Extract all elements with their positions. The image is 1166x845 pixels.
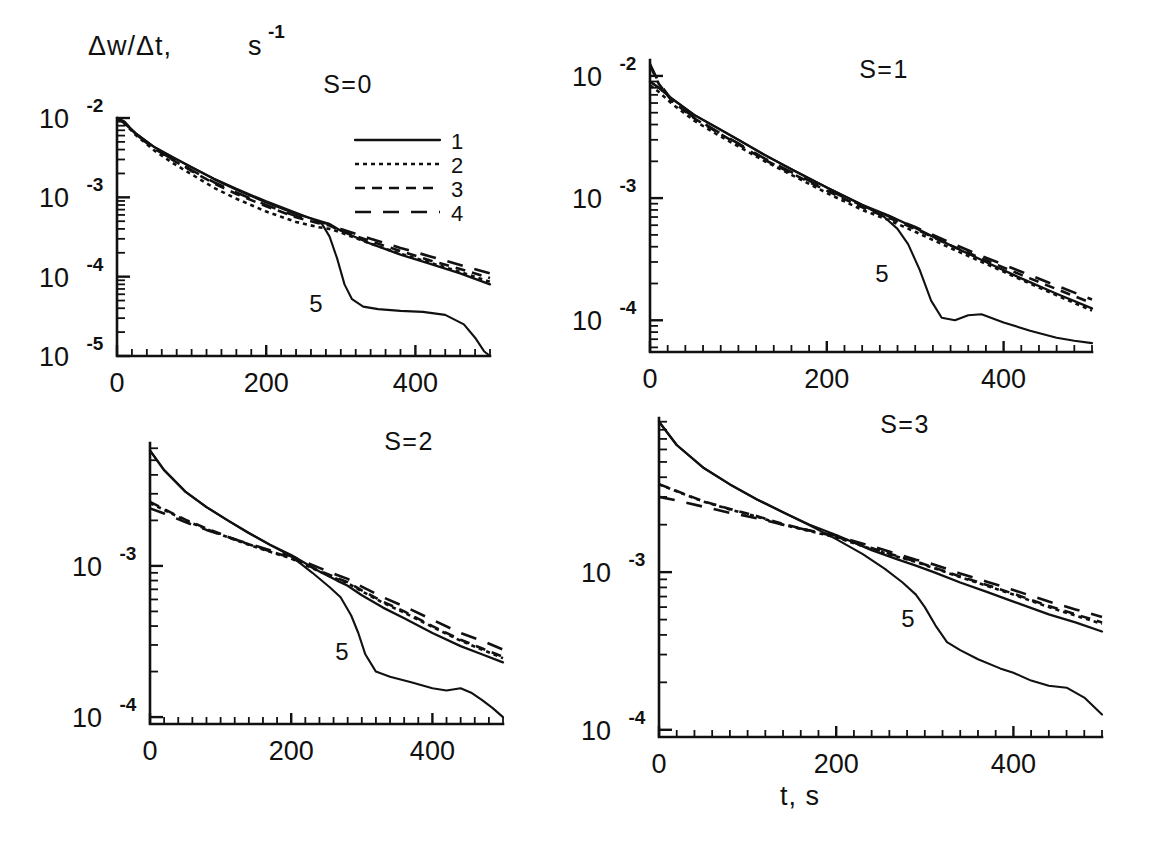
x-tick-label: 400 (981, 364, 1026, 394)
axis-lines (650, 60, 1092, 352)
curve-3 (150, 502, 503, 657)
curve-3 (117, 118, 490, 278)
legend: 1234 (355, 129, 463, 226)
curve-label-5: 5 (335, 638, 348, 665)
panel-title-s2: S=2 (384, 427, 434, 455)
y-tick-mantissa: 10 (39, 342, 69, 372)
curve-4 (650, 64, 1092, 299)
y-tick-mantissa: 10 (581, 716, 611, 746)
curve-1 (150, 451, 503, 663)
x-tick-label: 0 (109, 368, 124, 398)
x-tick-label: 200 (269, 736, 314, 766)
y-tick-mantissa: 10 (39, 263, 69, 293)
legend-label-4: 4 (451, 201, 463, 226)
curve-label-5: 5 (309, 290, 322, 317)
y-tick-exponent: -3 (620, 175, 637, 196)
x-axis-label-text: t, s (780, 781, 820, 811)
y-tick-mantissa: 10 (572, 184, 602, 214)
y-tick-exponent: -3 (629, 549, 646, 570)
y-tick-exponent: -3 (87, 174, 104, 195)
y-tick-mantissa: 10 (72, 552, 102, 582)
y-tick-exponent: -4 (87, 254, 104, 275)
y-tick-mantissa: 10 (572, 62, 602, 92)
curve-label-5: 5 (875, 260, 888, 287)
y-tick-exponent: -2 (87, 95, 104, 116)
x-tick-label: 0 (651, 749, 666, 779)
y-axis-label: Δw/Δt,s-1 (88, 21, 285, 61)
x-tick-label: 0 (642, 364, 657, 394)
y-tick-mantissa: 10 (39, 104, 69, 134)
x-tick-label: 400 (991, 749, 1036, 779)
panel-title-s3: S=3 (880, 410, 930, 438)
legend-label-1: 1 (451, 129, 463, 154)
y-tick-mantissa: 10 (572, 306, 602, 336)
x-tick-label: 400 (393, 368, 438, 398)
panel-s3: 020040010-310-4S=35 (581, 410, 1102, 779)
curve-3 (650, 65, 1092, 303)
panel-s2: 020040010-310-4S=25 (72, 427, 503, 766)
curve-5 (659, 422, 1102, 715)
panel-s0: 020040010-210-310-410-5S=05 (39, 70, 490, 398)
axis-lines (659, 418, 1102, 737)
y-tick-exponent: -4 (120, 694, 137, 715)
x-tick-label: 200 (244, 368, 289, 398)
y-axis-label-text: Δw/Δt, (88, 31, 172, 61)
curve-4 (150, 508, 503, 649)
curve-4 (117, 118, 490, 273)
y-tick-mantissa: 10 (72, 703, 102, 733)
y-tick-exponent: -5 (87, 333, 104, 354)
y-tick-exponent: -2 (620, 53, 637, 74)
y-tick-exponent: -4 (629, 707, 646, 728)
curve-5 (150, 451, 503, 718)
panel-title-s1: S=1 (859, 55, 909, 83)
x-tick-label: 400 (410, 736, 455, 766)
panel-title-s0: S=0 (323, 70, 373, 98)
legend-label-2: 2 (451, 153, 463, 178)
curve-1 (117, 118, 490, 284)
curve-5 (117, 118, 490, 356)
y-tick-exponent: -3 (120, 543, 137, 564)
x-tick-label: 200 (804, 364, 849, 394)
curve-4 (659, 497, 1102, 617)
x-tick-label: 200 (814, 749, 859, 779)
y-tick-exponent: -4 (620, 297, 637, 318)
figure-root: 020040010-210-310-410-5S=05020040010-210… (0, 0, 1166, 845)
y-tick-mantissa: 10 (581, 558, 611, 588)
panel-s1: 020040010-210-310-4S=15 (572, 53, 1092, 394)
curve-label-5: 5 (901, 605, 914, 632)
axis-lines (117, 118, 490, 356)
y-axis-unit-exponent: -1 (268, 21, 285, 42)
y-tick-mantissa: 10 (39, 183, 69, 213)
y-axis-unit-base: s (248, 31, 263, 61)
curve-2 (650, 85, 1092, 310)
legend-label-3: 3 (451, 177, 463, 202)
figure-svg: 020040010-210-310-410-5S=05020040010-210… (0, 0, 1166, 845)
x-tick-label: 0 (142, 736, 157, 766)
curve-1 (650, 82, 1092, 309)
